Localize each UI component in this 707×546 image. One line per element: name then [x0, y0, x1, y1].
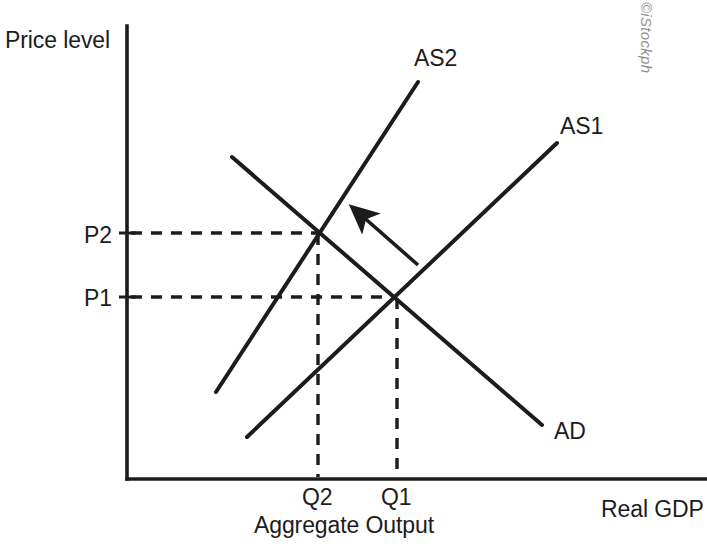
copyright-watermark: ©iStockph — [547, 2, 655, 28]
y-axis-label: Price level — [5, 29, 110, 52]
curve-ad — [232, 157, 542, 425]
curve-label-ad: AD — [554, 420, 586, 443]
curve-label-as1: AS1 — [560, 115, 603, 138]
diagram-canvas: Price level Real GDP P2 P1 Q2 Q1 AS2 AS1… — [0, 0, 707, 546]
output-tick-label-q1: Q1 — [381, 486, 411, 509]
curve-lines — [216, 82, 557, 437]
output-tick-label-q2: Q2 — [302, 486, 332, 509]
x-axis-caption: Aggregate Output — [254, 514, 434, 537]
as-ad-diagram-svg — [0, 0, 707, 546]
x-axis-label: Real GDP — [601, 498, 704, 521]
guide-lines — [131, 233, 397, 477]
curve-as1 — [247, 143, 557, 437]
axis-lines — [127, 26, 707, 479]
price-tick-label-p2: P2 — [84, 224, 112, 247]
curve-label-as2: AS2 — [414, 47, 457, 70]
price-tick-label-p1: P1 — [84, 287, 112, 310]
leftward-shift-arrow — [352, 207, 418, 265]
